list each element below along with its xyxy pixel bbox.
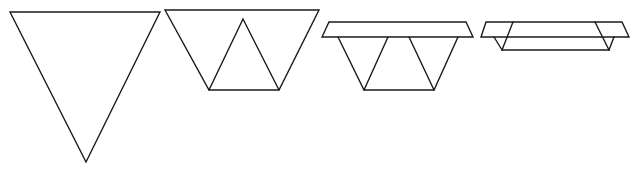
right-flap-fold: [595, 22, 609, 50]
inner-fold-left: [364, 37, 388, 90]
step-4-flat-tray: [481, 22, 629, 50]
step-3-folded-flap: [322, 22, 473, 90]
right-flap-edge: [609, 37, 614, 50]
step-1-inverted-triangle: [10, 12, 160, 162]
folding-diagram: [0, 0, 639, 170]
left-flap-edge: [494, 37, 502, 50]
step-2-trapezoid: [165, 10, 319, 90]
left-flap-fold: [502, 22, 513, 50]
inner-fold-right: [409, 37, 434, 90]
top-flap: [322, 22, 473, 37]
inner-triangle: [209, 19, 279, 90]
tray-top-band: [481, 22, 629, 37]
lower-trapezoid: [338, 37, 458, 90]
triangle-outline: [10, 12, 160, 162]
